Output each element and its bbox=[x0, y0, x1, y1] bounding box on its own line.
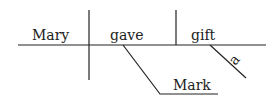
verb-word: gave bbox=[110, 27, 144, 43]
indirect-object-word: Mark bbox=[173, 77, 211, 93]
direct-object-word: gift bbox=[191, 27, 216, 43]
sentence-diagram: Mary gave gift Mark a bbox=[0, 0, 277, 100]
subject-word: Mary bbox=[32, 27, 69, 43]
modifier-word: a bbox=[225, 51, 242, 68]
